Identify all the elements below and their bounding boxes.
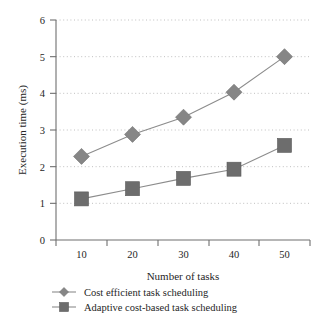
chart-legend: Cost efficient task scheduling Adaptive …	[52, 287, 238, 313]
line-chart: 6 5 4 3 2 1 0 10 20 30 40 50 Number of t…	[0, 0, 331, 318]
legend-label-cost-efficient: Cost efficient task scheduling	[84, 287, 209, 298]
data-point-marker	[126, 182, 140, 196]
x-tick-label-30: 30	[178, 249, 189, 260]
x-tick-labels: 10 20 30 40 50	[76, 249, 290, 260]
data-point-marker	[177, 171, 191, 185]
legend-item-cost-efficient[interactable]: Cost efficient task scheduling	[52, 287, 209, 298]
x-axis-title: Number of tasks	[147, 270, 220, 282]
y-tick-labels: 6 5 4 3 2 1 0	[40, 15, 46, 246]
figure-container: 6 5 4 3 2 1 0 10 20 30 40 50 Number of t…	[0, 0, 331, 318]
x-tick-label-40: 40	[229, 249, 240, 260]
x-tick-label-50: 50	[279, 249, 290, 260]
series-cost-efficient	[74, 49, 293, 165]
data-point-marker	[75, 192, 89, 206]
data-point-marker	[74, 148, 90, 164]
y-tick-label-4: 4	[40, 88, 46, 99]
y-tick-label-0: 0	[40, 235, 45, 246]
data-point-marker	[227, 162, 241, 176]
y-tick-label-3: 3	[40, 125, 45, 136]
data-point-marker	[176, 109, 192, 125]
y-axis-title: Execution time (ms)	[16, 85, 29, 175]
legend-diamond-icon	[60, 288, 69, 297]
x-tickmarks	[56, 240, 310, 246]
series-line-cost-efficient	[82, 57, 285, 157]
y-tick-label-1: 1	[40, 198, 45, 209]
data-point-marker	[125, 126, 141, 142]
y-tick-label-6: 6	[40, 15, 45, 26]
y-tick-label-5: 5	[40, 52, 45, 63]
legend-label-adaptive-cost-based: Adaptive cost-based task scheduling	[84, 302, 238, 313]
y-tick-label-2: 2	[40, 162, 45, 173]
series-adaptive-cost-based	[75, 138, 292, 206]
x-tick-label-20: 20	[127, 249, 138, 260]
data-point-marker	[277, 49, 293, 65]
legend-square-icon	[60, 303, 69, 312]
data-point-marker	[226, 84, 242, 100]
y-tickmarks	[50, 20, 56, 240]
data-point-marker	[278, 138, 292, 152]
x-tick-label-10: 10	[76, 249, 87, 260]
legend-item-adaptive-cost-based[interactable]: Adaptive cost-based task scheduling	[52, 302, 238, 313]
